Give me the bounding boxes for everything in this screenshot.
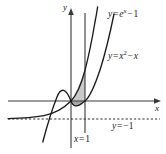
y-axis-label: y — [63, 3, 67, 12]
label-exp-const: 1 — [133, 9, 138, 19]
curve-label-parabola: y=x2−x — [108, 52, 138, 62]
asymptote-label: y=−1 — [112, 122, 133, 132]
label-neg1-value: −1 — [123, 121, 133, 131]
curve-parabola — [43, 14, 114, 142]
graph-canvas — [0, 0, 166, 154]
label-par-var2: x — [134, 51, 138, 61]
area-between-curves-figure: y=ex−1 y=x2−x y=−1 x=1 y x — [0, 0, 166, 154]
y-axis-arrowhead — [68, 8, 74, 15]
label-par-minus: − — [127, 51, 134, 61]
label-x1-value: 1 — [85, 134, 90, 144]
curve-label-exponential: y=ex−1 — [108, 10, 138, 20]
vertical-line-label: x=1 — [74, 135, 90, 145]
x-axis-label: x — [155, 104, 159, 113]
